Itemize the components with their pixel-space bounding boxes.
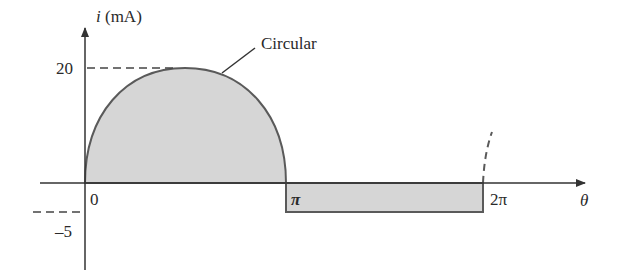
annotation-leader-line (222, 48, 255, 73)
waveform-diagram: i (mA) Circular 20 –5 0 π 2π θ (0, 0, 620, 277)
circular-annotation: Circular (261, 34, 317, 53)
continuation-dashed-arc (483, 132, 492, 183)
negative-pulse-region (286, 183, 483, 212)
x-tick-2pi: 2π (490, 190, 508, 209)
x-tick-pi: π (291, 190, 301, 209)
y-tick-minus-5: –5 (54, 222, 72, 241)
circular-positive-region (85, 68, 286, 183)
x-axis-label: θ (580, 191, 588, 210)
y-axis-unit: (mA) (101, 7, 142, 26)
y-axis-label: i (mA) (96, 7, 142, 26)
x-tick-0: 0 (90, 190, 99, 209)
y-tick-20: 20 (56, 59, 73, 78)
